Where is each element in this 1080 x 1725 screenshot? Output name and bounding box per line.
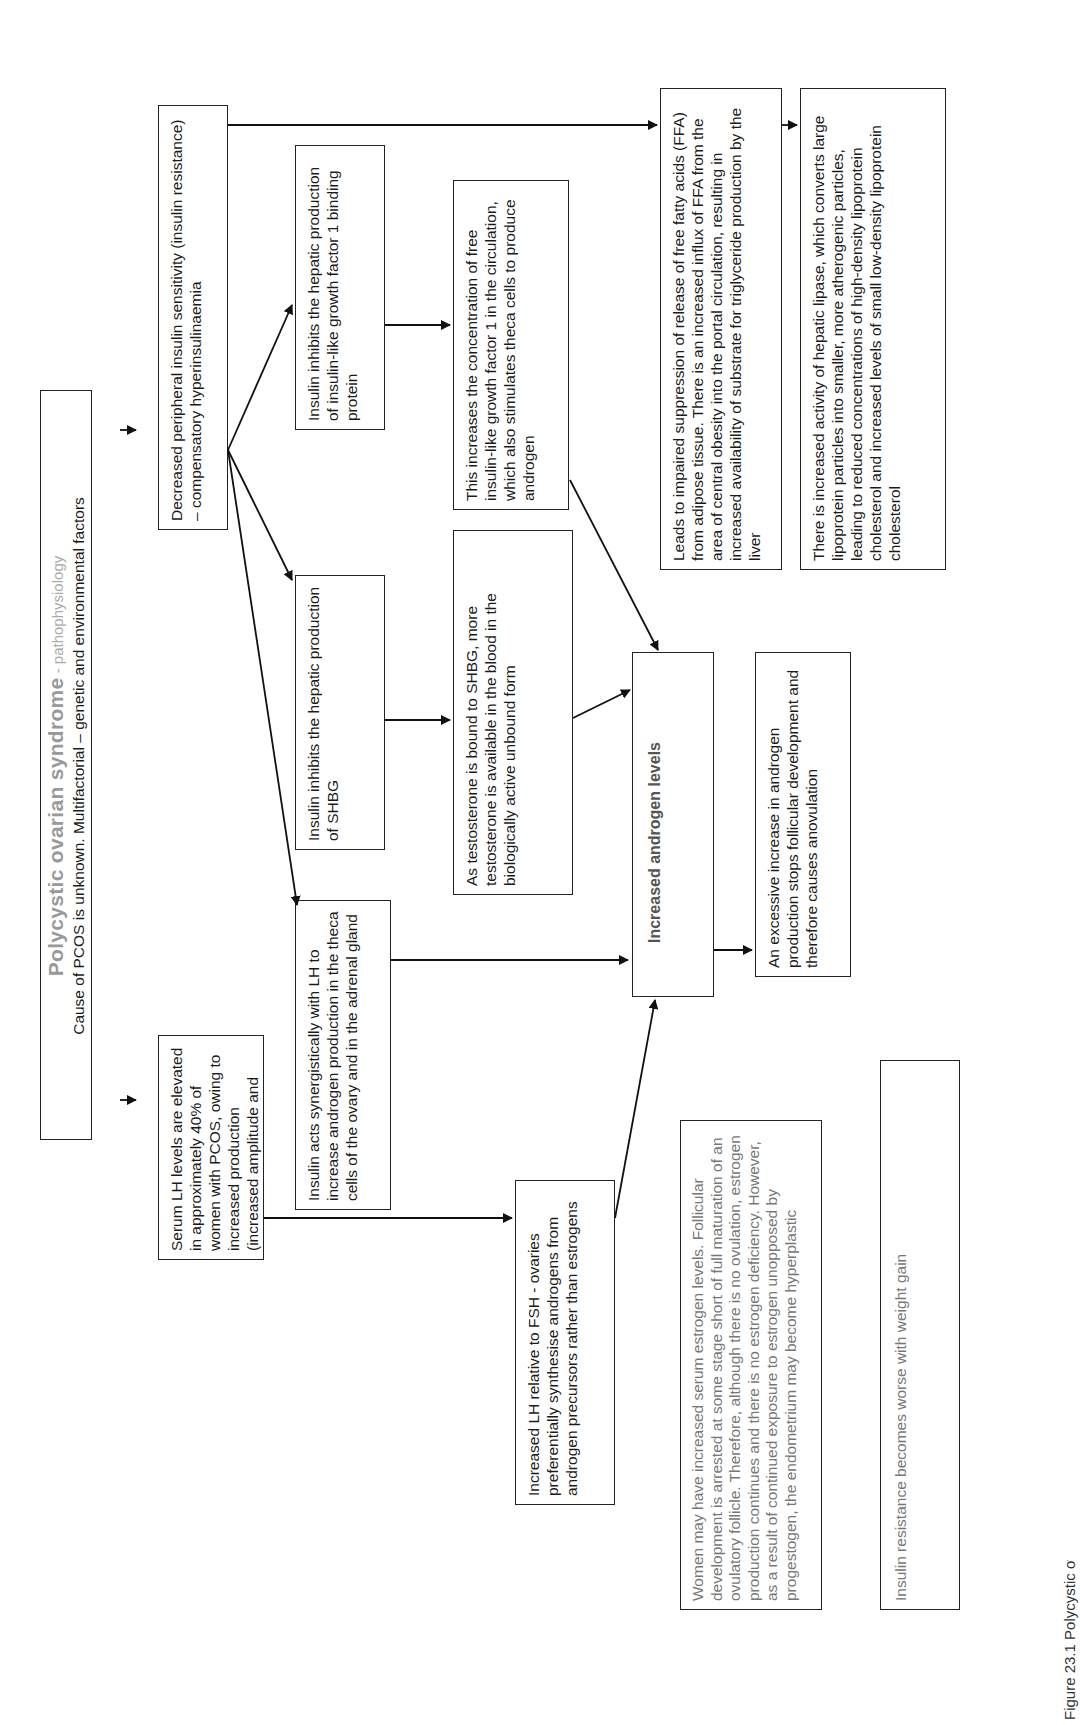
connector-arrows bbox=[0, 0, 1080, 1725]
arrow-to-igf bbox=[228, 305, 292, 450]
arrow-testosterone-to-androgen bbox=[573, 690, 630, 718]
arrow-igfinc-to-androgen bbox=[570, 480, 658, 650]
arrow-fsh-to-androgen bbox=[615, 1000, 655, 1218]
